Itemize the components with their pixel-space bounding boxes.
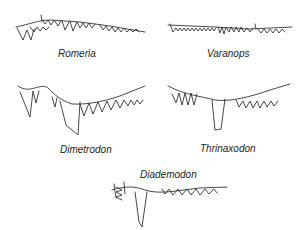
thrinaxodon-label: Thrinaxodon xyxy=(200,143,256,154)
tooth-figure: Romeria Varanops Dimetrodon Thrinaxodon … xyxy=(0,0,303,230)
diademodon-tooth-row xyxy=(112,182,227,227)
diademodon-label: Diademodon xyxy=(140,169,197,180)
thrinaxodon-tooth-row xyxy=(168,84,290,130)
varanops-tooth-row xyxy=(168,24,292,34)
tooth-rows-drawing xyxy=(0,0,303,230)
romeria-label: Romeria xyxy=(58,48,96,59)
dimetrodon-tooth-row xyxy=(18,86,145,135)
romeria-tooth-row xyxy=(16,15,145,40)
varanops-label: Varanops xyxy=(207,48,249,59)
dimetrodon-label: Dimetrodon xyxy=(60,144,112,155)
